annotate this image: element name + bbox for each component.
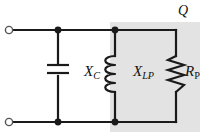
capacitor-label-subscript: C [93, 70, 100, 81]
node-top-capacitor [55, 27, 62, 34]
schematic-drawing [0, 0, 209, 140]
capacitor-label: XC [84, 64, 100, 81]
resistor-label-subscript: P [194, 70, 200, 81]
inductor-label: XLP [133, 64, 154, 81]
circuit-diagram: XC XLP RP Q [0, 0, 209, 140]
input-terminal-top[interactable] [5, 26, 12, 33]
resistor-label: RP [185, 64, 200, 81]
inductor-label-subscript: LP [142, 70, 154, 81]
inductor-label-symbol: X [133, 63, 142, 79]
node-bottom-capacitor [55, 119, 62, 126]
capacitor-label-symbol: X [84, 63, 93, 79]
node-top-inductor [112, 27, 119, 34]
node-bottom-inductor [112, 119, 119, 126]
input-terminal-bottom[interactable] [5, 118, 12, 125]
q-label: Q [178, 4, 188, 18]
resistor-label-symbol: R [185, 63, 194, 79]
